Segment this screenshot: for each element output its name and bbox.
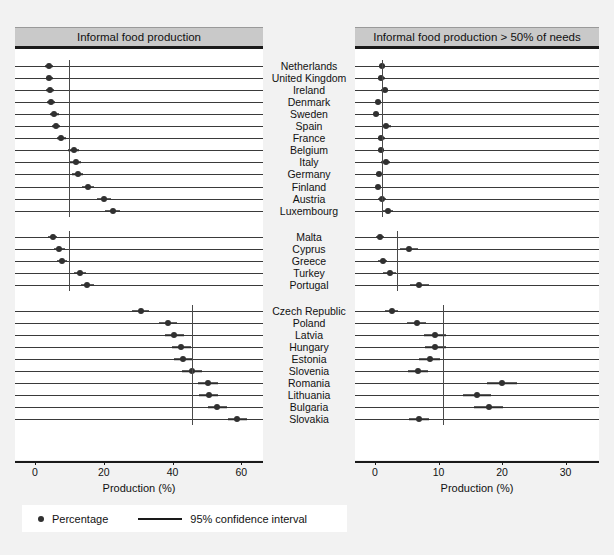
data-point-marker xyxy=(58,135,64,141)
row-baseline xyxy=(355,187,599,188)
data-point-marker xyxy=(377,234,383,240)
forest-plot-figure: Informal food production Informal food p… xyxy=(0,0,614,555)
data-point-marker xyxy=(180,356,186,362)
row-label: Portugal xyxy=(263,279,355,291)
x-axis-tick-label: 30 xyxy=(560,466,572,478)
x-axis-tick-label: 0 xyxy=(372,466,378,478)
data-point-marker xyxy=(71,147,77,153)
row-label: Greece xyxy=(263,255,355,267)
data-point-marker xyxy=(373,111,379,117)
row-baseline xyxy=(355,114,599,115)
row-baseline xyxy=(15,285,263,286)
x-axis-tick xyxy=(173,461,174,465)
data-point-marker xyxy=(205,380,211,386)
data-point-marker xyxy=(415,368,421,374)
data-point-marker xyxy=(416,416,422,422)
row-baseline xyxy=(15,211,263,212)
x-axis-tick-label: 10 xyxy=(433,466,445,478)
data-point-marker xyxy=(375,184,381,190)
group-reference-line xyxy=(192,305,193,425)
row-label: Slovakia xyxy=(263,413,355,425)
legend-label-confidence-interval: 95% confidence interval xyxy=(190,513,307,525)
row-baseline xyxy=(355,237,599,238)
data-point-marker xyxy=(84,282,90,288)
row-label-column: NetherlandsUnited KingdomIrelandDenmarkS… xyxy=(263,49,355,460)
x-axis-tick-label: 20 xyxy=(496,466,508,478)
row-baseline xyxy=(15,249,263,250)
row-baseline xyxy=(355,162,599,163)
row-baseline xyxy=(15,323,263,324)
row-label: Luxembourg xyxy=(263,205,355,217)
row-baseline xyxy=(355,126,599,127)
row-label: Finland xyxy=(263,181,355,193)
row-label: Denmark xyxy=(263,96,355,108)
row-label: Romania xyxy=(263,377,355,389)
x-axis-tick xyxy=(104,461,105,465)
x-axis-right xyxy=(355,461,599,463)
row-label: Slovenia xyxy=(263,365,355,377)
row-label: Germany xyxy=(263,168,355,180)
row-label: Lithuania xyxy=(263,389,355,401)
row-baseline xyxy=(15,261,263,262)
row-label: Poland xyxy=(263,317,355,329)
row-label: Austria xyxy=(263,193,355,205)
x-axis-tick xyxy=(566,461,567,465)
data-point-marker xyxy=(73,159,79,165)
group-reference-line xyxy=(382,60,383,217)
data-point-marker xyxy=(432,344,438,350)
row-label: Italy xyxy=(263,156,355,168)
data-point-marker xyxy=(380,258,386,264)
x-axis-left xyxy=(15,461,263,463)
x-axis-tick-label: 40 xyxy=(167,466,179,478)
row-baseline xyxy=(15,162,263,163)
data-point-marker xyxy=(387,270,393,276)
data-point-marker xyxy=(50,234,56,240)
data-point-marker xyxy=(138,308,144,314)
x-axis-title-right: Production (%) xyxy=(441,482,514,494)
x-axis-title-left: Production (%) xyxy=(103,482,176,494)
data-point-marker xyxy=(171,332,177,338)
x-axis-tick xyxy=(35,461,36,465)
x-axis-tick-label: 60 xyxy=(235,466,247,478)
x-axis-tick xyxy=(241,461,242,465)
row-baseline xyxy=(355,199,599,200)
data-point-marker xyxy=(385,208,391,214)
data-point-marker xyxy=(206,392,212,398)
row-baseline xyxy=(355,249,599,250)
data-point-marker xyxy=(53,123,59,129)
row-baseline xyxy=(355,383,599,384)
row-baseline xyxy=(15,150,263,151)
row-baseline xyxy=(355,102,599,103)
row-baseline xyxy=(355,347,599,348)
data-point-marker xyxy=(165,320,171,326)
row-baseline xyxy=(355,261,599,262)
row-label: United Kingdom xyxy=(263,72,355,84)
data-point-marker xyxy=(59,258,65,264)
legend-label-percentage: Percentage xyxy=(52,513,108,525)
data-point-marker xyxy=(416,282,422,288)
horizontal-line-marker-icon xyxy=(138,518,182,520)
row-label: Malta xyxy=(263,231,355,243)
panel-header-right: Informal food production > 50% of needs xyxy=(355,27,599,49)
row-baseline xyxy=(15,335,263,336)
row-baseline xyxy=(15,174,263,175)
data-point-marker xyxy=(56,246,62,252)
data-point-marker xyxy=(46,75,52,81)
data-point-marker xyxy=(427,356,433,362)
row-baseline xyxy=(15,138,263,139)
panel-header-left: Informal food production xyxy=(15,27,263,49)
data-point-marker xyxy=(48,99,54,105)
data-point-marker xyxy=(389,308,395,314)
row-baseline xyxy=(355,323,599,324)
row-baseline xyxy=(15,383,263,384)
data-point-marker xyxy=(101,196,107,202)
row-baseline xyxy=(15,371,263,372)
filled-circle-marker-icon xyxy=(38,516,44,522)
row-label: Bulgaria xyxy=(263,401,355,413)
row-baseline xyxy=(355,359,599,360)
data-point-marker xyxy=(406,246,412,252)
row-baseline xyxy=(15,395,263,396)
data-point-marker xyxy=(383,159,389,165)
x-axis-tick-label: 20 xyxy=(98,466,110,478)
legend-item-percentage: Percentage xyxy=(38,513,108,525)
